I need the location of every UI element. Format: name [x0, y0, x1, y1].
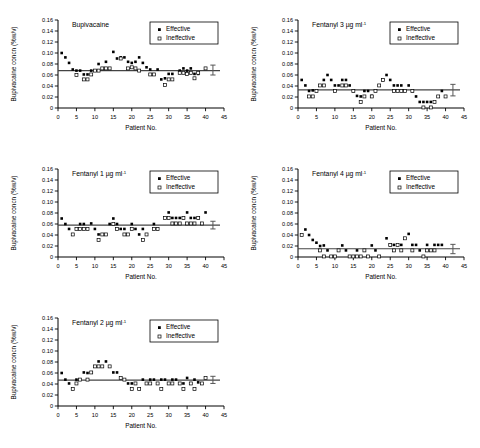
x-tick-label: 5 [315, 114, 318, 120]
marker-effective [105, 360, 108, 363]
marker-effective [142, 378, 145, 381]
x-tick-label: 25 [147, 114, 153, 120]
marker-effective [105, 61, 108, 64]
marker-ineffective [86, 378, 89, 381]
marker-effective [418, 101, 421, 104]
marker-effective [116, 371, 119, 374]
marker-ineffective [123, 233, 126, 236]
marker-effective [79, 223, 82, 226]
marker-ineffective [193, 222, 196, 225]
marker-ineffective [156, 382, 159, 385]
x-tick-label: 45 [221, 263, 227, 269]
x-tick-label: 30 [406, 114, 412, 120]
marker-ineffective [167, 78, 170, 81]
marker-effective [308, 234, 311, 237]
x-tick-label: 20 [369, 263, 375, 269]
marker-ineffective [374, 89, 377, 92]
marker-ineffective [108, 67, 111, 70]
marker-effective [396, 84, 399, 87]
y-tick-label: 0.08 [282, 61, 293, 67]
x-tick-label: 10 [92, 412, 98, 418]
marker-effective [64, 56, 67, 59]
marker-effective [204, 211, 207, 214]
marker-ineffective [178, 382, 181, 385]
marker-ineffective [315, 89, 318, 92]
marker-effective [393, 244, 396, 247]
marker-effective [138, 233, 141, 236]
x-tick-label: 30 [166, 412, 172, 418]
x-tick-label: 40 [442, 263, 448, 269]
legend: EffectiveIneffective [390, 22, 458, 44]
marker-ineffective [193, 387, 196, 390]
marker-effective [86, 372, 89, 375]
marker-effective [83, 371, 86, 374]
series-effective [300, 74, 443, 104]
marker-ineffective [337, 249, 340, 252]
x-axis-title: Patient No. [365, 273, 397, 280]
y-tick-label: 0 [290, 254, 293, 260]
y-tick-label: 0.06 [282, 72, 293, 78]
marker-ineffective [189, 222, 192, 225]
plot-area-fentanyl-3: 00.020.040.060.080.100.120.140.160510152… [240, 0, 480, 149]
marker-ineffective [86, 78, 89, 81]
marker-effective [330, 79, 333, 82]
marker-ineffective [163, 83, 166, 86]
marker-ineffective [71, 387, 74, 390]
y-tick-label: 0.08 [282, 210, 293, 216]
marker-effective [153, 223, 156, 226]
marker-ineffective [149, 73, 152, 76]
marker-effective [437, 244, 440, 247]
marker-effective [304, 228, 307, 231]
marker-ineffective [400, 89, 403, 92]
x-tick-label: 10 [332, 263, 338, 269]
marker-ineffective [322, 84, 325, 87]
series-ineffective [71, 216, 203, 241]
marker-effective [186, 211, 189, 214]
x-tick-label: 25 [387, 114, 393, 120]
marker-effective [123, 56, 126, 59]
y-tick-label: 0.04 [282, 83, 293, 89]
marker-ineffective [119, 57, 122, 60]
marker-effective [186, 377, 189, 380]
x-tick-label: 15 [350, 114, 356, 120]
marker-effective [415, 244, 418, 247]
y-axis-title: Bupivacaine concn (%w/v) [250, 27, 258, 102]
marker-effective [164, 77, 167, 80]
marker-effective [119, 228, 122, 231]
marker-ineffective [363, 249, 366, 252]
y-tick-label: 0.10 [42, 348, 53, 354]
marker-ineffective [378, 84, 381, 87]
y-tick-label: 0.06 [42, 221, 53, 227]
plot-area-fentanyl-4: 00.020.040.060.080.100.120.140.160510152… [240, 149, 480, 298]
marker-effective [300, 79, 303, 82]
x-tick-label: 30 [406, 263, 412, 269]
marker-effective [182, 382, 185, 385]
marker-effective [407, 233, 410, 236]
y-tick-label: 0.04 [282, 232, 293, 238]
marker-ineffective [79, 227, 82, 230]
marker-effective [75, 69, 78, 72]
marker-ineffective [392, 249, 395, 252]
marker-effective [171, 217, 174, 220]
marker-ineffective [127, 233, 130, 236]
x-tick-label: 15 [110, 263, 116, 269]
marker-ineffective [163, 216, 166, 219]
marker-effective [426, 244, 429, 247]
x-axis-title: Patient No. [125, 422, 157, 429]
marker-effective [149, 68, 152, 71]
x-tick-label: 40 [202, 412, 208, 418]
marker-effective [178, 217, 181, 220]
x-tick-label: 20 [369, 114, 375, 120]
marker-ineffective [319, 249, 322, 252]
marker-ineffective [193, 77, 196, 80]
open-square-icon [398, 186, 401, 189]
marker-ineffective [127, 67, 130, 70]
x-tick-label: 15 [110, 114, 116, 120]
y-tick-label: 0.14 [282, 28, 293, 34]
marker-effective [186, 69, 189, 72]
marker-effective [68, 62, 71, 65]
x-tick-label: 10 [92, 263, 98, 269]
marker-ineffective [97, 238, 100, 241]
marker-effective [359, 95, 362, 98]
filled-square-icon [158, 177, 161, 180]
